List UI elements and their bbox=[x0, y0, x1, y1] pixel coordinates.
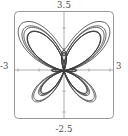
plot-canvas bbox=[0, 0, 128, 136]
x-axis-max-label: 3 bbox=[116, 62, 128, 71]
y-axis-max-label: 3.5 bbox=[50, 1, 78, 10]
polar-plot-figure: 3.5 -2.5 -3 3 bbox=[0, 0, 128, 136]
x-axis-min-label: -3 bbox=[0, 62, 14, 71]
y-axis-min-label: -2.5 bbox=[48, 125, 80, 134]
